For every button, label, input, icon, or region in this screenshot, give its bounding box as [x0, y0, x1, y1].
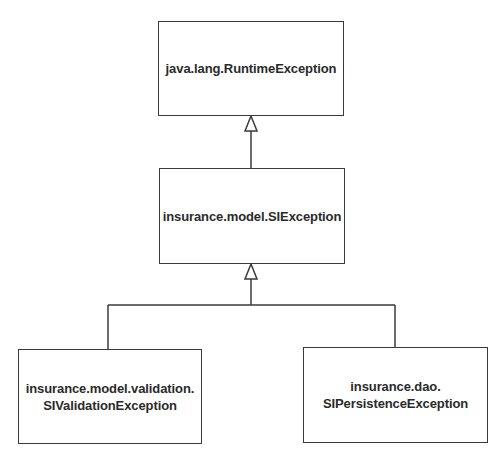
class-box-si-validation-exception: insurance.model.validation. SIValidation… [18, 349, 202, 444]
class-name-label: insurance.model.validation. SIValidation… [26, 380, 195, 414]
class-box-runtime-exception: java.lang.RuntimeException [158, 21, 344, 116]
generalization-arrow-icon [245, 264, 257, 279]
class-name-label: java.lang.RuntimeException [166, 60, 337, 77]
generalization-arrow-icon [245, 116, 257, 131]
class-box-si-exception: insurance.model.SIException [159, 168, 345, 264]
class-name-label: insurance.dao. SIPersistenceException [323, 378, 468, 412]
edge-children-to-si [108, 264, 395, 349]
class-diagram: java.lang.RuntimeException insurance.mod… [0, 0, 502, 461]
edge-si-to-runtime [245, 116, 257, 168]
class-box-si-persistence-exception: insurance.dao. SIPersistenceException [303, 347, 488, 443]
class-name-label: insurance.model.SIException [163, 208, 342, 225]
